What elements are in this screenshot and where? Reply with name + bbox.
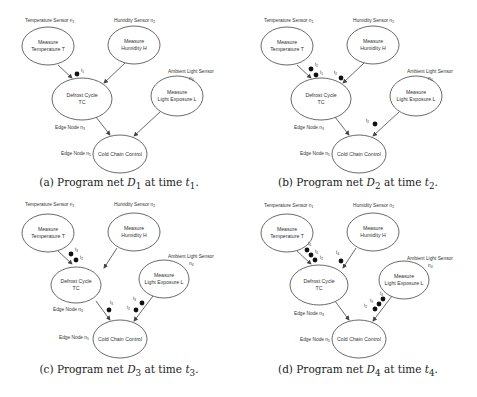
- edge-hum-defrost: [104, 63, 125, 83]
- token-dot: [75, 72, 80, 77]
- svg-text:t4: t4: [336, 250, 339, 256]
- label-edge-node-3: Edge Node n3: [53, 307, 83, 313]
- label-edge-node-5: Edge Node n5: [300, 151, 330, 157]
- svg-text:t4: t4: [380, 291, 383, 297]
- label-light-sensor-id: n4: [189, 261, 194, 267]
- label-humidity-sensor: Humidity Sensor n2: [353, 203, 394, 209]
- program-net-diagram: Measure Temperature T Measure Humidity H…: [239, 196, 477, 372]
- edge-hum-defrost: [343, 248, 356, 268]
- edge-hum-defrost: [343, 63, 364, 83]
- svg-text:t2: t2: [315, 62, 318, 68]
- token-dot: [314, 73, 319, 78]
- caption: (d) Program net D4 at time t4.: [239, 363, 477, 378]
- edge-defrost-cold: [335, 301, 349, 320]
- node-text: Humidity H: [360, 232, 386, 238]
- node-text: Humidity H: [360, 45, 386, 51]
- label-temp-sensor: Temperature Sensor n1: [264, 18, 313, 24]
- node-text: Temperature T: [270, 46, 304, 52]
- svg-text:t2: t2: [320, 255, 323, 261]
- token-dot: [134, 308, 139, 313]
- label-humidity-sensor: Humidity Sensor n2: [114, 18, 155, 24]
- label-light-sensor: Ambient Light Sensor: [407, 256, 453, 261]
- svg-text:t2: t2: [334, 70, 337, 76]
- node-text: Light Exposure L: [145, 279, 184, 285]
- label-light-sensor-id: n4: [428, 263, 433, 269]
- node-text: Light Exposure L: [397, 96, 436, 102]
- label-edge-node-5: Edge Node n5: [59, 335, 89, 341]
- program-net-diagram: Measure Temperature T Measure Humidity H…: [0, 196, 238, 372]
- node-text: Humidity H: [121, 232, 147, 238]
- node-text: Measure: [38, 226, 58, 232]
- node-text: Humidity H: [121, 45, 147, 51]
- node-text: Cold Chain Control: [337, 336, 381, 342]
- node-text: Measure: [38, 39, 58, 45]
- token-dot: [339, 76, 344, 81]
- label-temp-sensor: Temperature Sensor n1: [264, 203, 313, 209]
- node-text: TC: [79, 99, 86, 105]
- edge-temp-defrost: [58, 65, 72, 78]
- svg-text:t3: t3: [110, 300, 113, 306]
- token-dot: [339, 259, 344, 264]
- node-text: Temperature T: [31, 233, 65, 239]
- node-text: Light Exposure L: [158, 96, 197, 102]
- node-text: Temperature T: [31, 46, 65, 52]
- svg-text:t2: t2: [364, 303, 367, 309]
- caption: (a) Program net D1 at time t1.: [0, 176, 238, 191]
- edge-defrost-cold: [96, 117, 110, 135]
- token-dot: [69, 252, 74, 257]
- node-text: Temperature T: [270, 233, 304, 239]
- token-dot: [74, 258, 79, 263]
- svg-text:t1: t1: [320, 70, 323, 76]
- token-dot: [107, 308, 112, 313]
- edge-temp-defrost: [297, 251, 311, 264]
- panel-c: Measure Temperature T Measure Humidity H…: [0, 196, 238, 394]
- program-net-diagram: Measure Temperature T Measure Humidity H…: [239, 0, 477, 176]
- edge-hum-defrost: [104, 248, 117, 268]
- token-dot: [309, 253, 314, 258]
- token-dot: [313, 258, 318, 263]
- label-light-sensor: Ambient Light Sensor: [168, 69, 214, 74]
- panel-a: Measure Temperature T Measure Humidity H…: [0, 0, 238, 198]
- node-text: Measure: [277, 39, 297, 45]
- node-text: Defrost Cycle: [66, 92, 97, 98]
- node-text: Measure: [124, 38, 144, 44]
- svg-text:t1: t1: [81, 68, 84, 74]
- node-text: Measure: [277, 226, 297, 232]
- token-dot: [373, 307, 378, 312]
- token-dot: [140, 301, 145, 306]
- edge-light-cold: [134, 112, 160, 136]
- svg-text:t2: t2: [80, 255, 83, 261]
- token-dot: [305, 248, 310, 253]
- token-dot: [309, 67, 314, 72]
- node-text: Measure: [394, 273, 414, 279]
- node-text: Measure: [363, 225, 383, 231]
- edge-defrost-cold: [335, 117, 349, 135]
- token-dot: [377, 302, 382, 307]
- label-edge-node-5: Edge Node n5: [61, 151, 91, 157]
- node-text: TC: [316, 285, 323, 291]
- node-text: Measure: [167, 89, 187, 95]
- program-net-diagram: Measure Temperature T Measure Humidity H…: [0, 0, 238, 176]
- node-text: Measure: [363, 38, 383, 44]
- node-text: Measure: [124, 225, 144, 231]
- panel-d: Measure Temperature T Measure Humidity H…: [239, 196, 477, 394]
- label-humidity-sensor: Humidity Sensor n2: [353, 18, 394, 24]
- svg-text:t3: t3: [75, 247, 78, 253]
- label-edge-node-3: Edge Node n3: [55, 125, 85, 131]
- node-text: Measure: [154, 272, 174, 278]
- label-temp-sensor: Temperature Sensor n1: [25, 18, 74, 24]
- label-humidity-sensor: Humidity Sensor n2: [114, 202, 155, 208]
- panel-b: Measure Temperature T Measure Humidity H…: [239, 0, 477, 198]
- svg-text:t3: t3: [370, 298, 373, 304]
- label-light-sensor: Ambient Light Sensor: [168, 254, 214, 259]
- label-light-sensor: Ambient Light Sensor: [407, 69, 453, 74]
- label-edge-node-3: Edge Node n3: [294, 125, 324, 131]
- node-text: Defrost Cycle: [60, 278, 91, 284]
- node-text: Cold Chain Control: [337, 151, 381, 157]
- edge-temp-defrost: [297, 65, 311, 78]
- node-text: Cold Chain Control: [98, 336, 142, 342]
- label-edge-node-5: Edge Node n5: [300, 337, 330, 343]
- svg-text:t2: t2: [127, 305, 130, 311]
- label-edge-node-3: Edge Node n3: [294, 311, 324, 317]
- node-text: Defrost Cycle: [305, 92, 336, 98]
